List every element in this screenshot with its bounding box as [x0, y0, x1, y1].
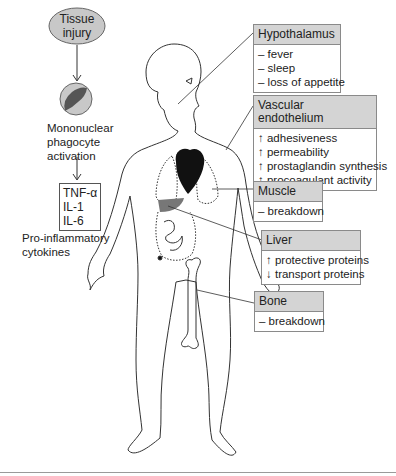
phagocyte-line-1: Mononuclear [47, 121, 113, 135]
cytokines-caption-line-2: cytokines [22, 245, 110, 259]
vascular-effect: ↑ adhesiveness [258, 131, 372, 145]
muscle-title: Muscle [254, 182, 322, 202]
liver-title: Liver [262, 231, 360, 251]
vascular-effect: ↑ permeability [258, 145, 372, 159]
intestines-icon [156, 212, 196, 260]
cytokine-il1: IL-1 [63, 200, 97, 214]
bottom-divider [0, 472, 396, 473]
muscle-box: Muscle – breakdown [253, 181, 323, 222]
phagocyte-line-3: activation [47, 149, 113, 163]
hypothalamus-marker-icon [186, 78, 192, 84]
hypothalamus-effect: – sleep [258, 61, 336, 75]
vascular-endothelium-box: Vascular endothelium ↑ adhesiveness ↑ pe… [253, 95, 377, 191]
bone-box: Bone – breakdown [254, 291, 324, 332]
bone-effect: – breakdown [259, 314, 319, 328]
vascular-endothelium-title: Vascular endothelium [254, 96, 376, 129]
muscle-effect: – breakdown [258, 204, 318, 218]
bone-title: Bone [255, 292, 323, 312]
tissue-injury-label: Tissue injury [49, 12, 105, 40]
hypothalamus-effect: – fever [258, 47, 336, 61]
vascular-effect: ↑ prostaglandin synthesis [258, 159, 372, 173]
arrow-icon [73, 45, 81, 81]
hypothalamus-box: Hypothalamus – fever – sleep – loss of a… [253, 24, 341, 93]
phagocyte-cell-icon [60, 83, 92, 115]
tissue-injury-text: Tissue injury [60, 12, 95, 40]
cytokines-caption-line-1: Pro-inflammatory [22, 231, 110, 245]
femur-icon [181, 258, 200, 349]
cytokine-tnf: TNF-α [63, 186, 97, 200]
phagocyte-line-2: phagocyte [47, 135, 113, 149]
liver-effect: ↓ transport proteins [266, 267, 356, 281]
phagocyte-activation-label: Mononuclear phagocyte activation [47, 121, 113, 163]
cytokine-il6: IL-6 [63, 214, 97, 228]
hypothalamus-title: Hypothalamus [254, 25, 340, 45]
liver-effect: ↑ protective proteins [266, 253, 356, 267]
cytokines-caption: Pro-inflammatory cytokines [22, 231, 110, 259]
human-body-outline [88, 44, 280, 455]
heart-icon [176, 149, 205, 194]
hypothalamus-effect: – loss of appetite [258, 75, 336, 89]
liver-box: Liver ↑ protective proteins ↓ transport … [261, 230, 361, 285]
liver-icon [158, 198, 184, 212]
cytokines-box: TNF-α IL-1 IL-6 [59, 183, 101, 231]
